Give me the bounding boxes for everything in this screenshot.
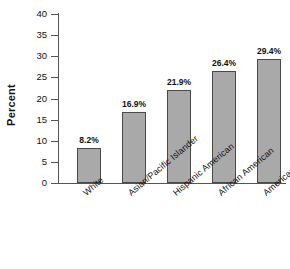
y-tick-label: 20 (21, 94, 47, 104)
bar-value-label: 29.4% (247, 47, 290, 56)
bar-value-label: 26.4% (202, 59, 246, 68)
bar-chart: Percent 0510152025303540 8.2%16.9%21.9%2… (0, 0, 290, 269)
y-axis-title: Percent (0, 60, 22, 150)
y-tick-mark (51, 120, 58, 121)
y-tick-mark (51, 14, 58, 15)
bar-value-label: 16.9% (112, 100, 156, 109)
y-tick-label: 30 (21, 51, 47, 61)
y-tick-label: 15 (21, 115, 47, 125)
y-tick-label: 35 (21, 30, 47, 40)
bar-value-label: 21.9% (157, 78, 201, 87)
x-axis-labels: WhiteAsian/Pacific IslanderHispanic Amer… (58, 184, 290, 269)
y-tick-label: 5 (21, 157, 47, 167)
y-tick-label: 25 (21, 72, 47, 82)
y-tick-mark (51, 162, 58, 163)
y-tick-mark (51, 77, 58, 78)
y-tick-label: 10 (21, 136, 47, 146)
y-tick-label: 0 (21, 178, 47, 188)
y-tick-mark (51, 56, 58, 57)
bar (212, 71, 236, 183)
y-axis-title-label: Percent (5, 84, 17, 126)
y-tick-label: 40 (21, 9, 47, 19)
y-tick-mark (51, 35, 58, 36)
y-tick-mark (51, 99, 58, 100)
y-tick-mark (51, 141, 58, 142)
bar (122, 112, 146, 183)
bar-value-label: 8.2% (67, 136, 111, 145)
y-tick-mark (51, 183, 58, 184)
